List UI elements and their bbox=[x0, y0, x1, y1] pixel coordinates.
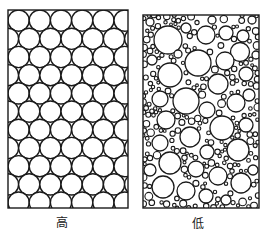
grain-circle bbox=[219, 26, 233, 40]
grain-circle bbox=[143, 163, 146, 166]
grain-circle bbox=[236, 204, 239, 207]
grain-circle bbox=[185, 50, 211, 76]
grain-circle bbox=[181, 166, 187, 172]
grain-circle bbox=[215, 163, 219, 167]
grain-circle bbox=[181, 61, 184, 64]
grain-circle bbox=[187, 176, 191, 180]
grain-circle bbox=[231, 116, 235, 120]
grain-circle bbox=[248, 165, 258, 175]
grain-circle bbox=[157, 57, 160, 60]
grain-circle bbox=[216, 52, 234, 70]
grain-circle bbox=[144, 91, 147, 94]
grain-circle bbox=[143, 121, 150, 128]
grain-circle bbox=[252, 28, 259, 35]
grain-circle bbox=[157, 111, 175, 129]
grain-circle bbox=[149, 89, 152, 92]
grain-circle bbox=[208, 140, 214, 146]
grain-circle bbox=[159, 129, 163, 133]
grain-circle bbox=[146, 142, 150, 146]
grain-circle bbox=[169, 55, 173, 59]
grain-circle bbox=[179, 119, 185, 125]
grain-circle bbox=[8, 192, 29, 213]
grain-circle bbox=[184, 173, 188, 177]
grain-circle bbox=[164, 201, 170, 207]
grain-circle bbox=[254, 156, 258, 160]
grain-circle bbox=[199, 91, 206, 98]
grain-circle bbox=[183, 161, 186, 164]
grain-circle bbox=[247, 159, 251, 163]
grain-circle bbox=[180, 148, 186, 154]
grain-circle bbox=[244, 60, 249, 65]
grain-circle bbox=[155, 50, 159, 54]
grain-circle bbox=[183, 44, 188, 49]
grain-circle bbox=[221, 94, 226, 99]
grain-circle bbox=[147, 48, 153, 54]
grain-circle bbox=[193, 47, 196, 50]
grain-circle bbox=[188, 118, 194, 124]
grain-circle bbox=[247, 132, 253, 138]
grain-circle bbox=[188, 161, 204, 177]
grain-circle bbox=[215, 202, 218, 205]
grain-circle bbox=[231, 201, 235, 205]
grain-circle bbox=[180, 200, 187, 207]
grain-circle bbox=[201, 77, 204, 80]
grain-circle bbox=[149, 200, 155, 206]
grain-circle bbox=[164, 21, 167, 24]
grain-circle bbox=[156, 15, 160, 19]
grain-circle bbox=[171, 109, 175, 113]
grain-circle bbox=[243, 89, 255, 101]
high-label: 高 bbox=[42, 213, 82, 230]
grain-circle bbox=[50, 192, 71, 213]
grain-circle bbox=[203, 118, 208, 123]
grain-circle bbox=[164, 13, 170, 19]
grain-circle bbox=[147, 55, 157, 65]
grain-circle bbox=[187, 33, 192, 38]
grain-circle bbox=[173, 88, 199, 114]
grain-circle bbox=[218, 154, 221, 157]
grain-circle bbox=[236, 90, 240, 94]
grain-circle bbox=[146, 112, 151, 117]
grain-circle bbox=[253, 42, 261, 50]
grain-circle bbox=[159, 152, 181, 174]
grain-circle bbox=[235, 79, 239, 83]
grain-circle bbox=[195, 115, 201, 121]
grain-circle bbox=[141, 128, 146, 133]
grain-circle bbox=[181, 23, 191, 33]
grain-circle bbox=[205, 164, 209, 168]
grain-circle bbox=[172, 18, 176, 22]
grain-circle bbox=[246, 27, 250, 31]
grain-circle bbox=[157, 87, 160, 90]
grain-circle bbox=[249, 57, 253, 61]
grain-circle bbox=[253, 132, 258, 137]
grain-circle bbox=[248, 39, 252, 43]
grain-circle bbox=[182, 155, 187, 160]
grain-circle bbox=[207, 131, 211, 135]
grain-circle bbox=[165, 88, 171, 94]
grain-circle bbox=[154, 124, 159, 129]
grain-circle bbox=[231, 173, 251, 193]
grain-circle bbox=[143, 75, 148, 80]
grain-circle bbox=[148, 184, 152, 188]
grain-circle bbox=[239, 62, 243, 66]
grain-circle bbox=[170, 23, 173, 26]
grain-circle bbox=[205, 139, 208, 142]
grain-circle bbox=[181, 16, 185, 20]
grain-circle bbox=[237, 164, 240, 167]
grain-circle bbox=[254, 104, 261, 111]
grain-circle bbox=[205, 77, 209, 81]
grain-circle bbox=[239, 18, 245, 24]
grain-circle bbox=[141, 44, 148, 51]
grain-circle bbox=[249, 107, 253, 111]
grain-circle bbox=[174, 22, 177, 25]
grain-circle bbox=[228, 191, 233, 196]
grain-circle bbox=[212, 66, 219, 73]
grain-circle bbox=[208, 74, 228, 94]
grain-circle bbox=[0, 119, 8, 140]
grain-circle bbox=[188, 13, 195, 20]
grain-circle bbox=[170, 94, 174, 98]
grain-circle bbox=[237, 30, 249, 42]
grain-circle bbox=[220, 15, 227, 22]
grain-circle bbox=[146, 29, 149, 32]
grain-circle bbox=[236, 25, 239, 28]
grain-circle bbox=[175, 113, 181, 119]
